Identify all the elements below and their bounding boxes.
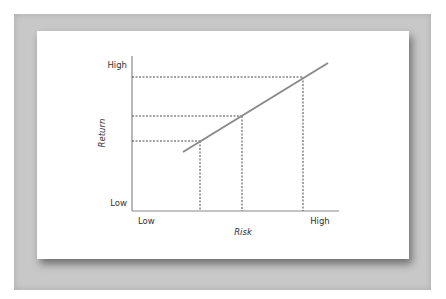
x-low-label: Low bbox=[138, 216, 155, 226]
y-high-label: High bbox=[107, 60, 127, 70]
x-axis-title: Risk bbox=[234, 227, 253, 237]
dashed-guides bbox=[132, 77, 303, 211]
tradeoff-line bbox=[183, 63, 328, 152]
risk-return-diagram: High Low Low High Risk Return bbox=[0, 0, 446, 299]
x-high-label: High bbox=[310, 216, 330, 226]
y-axis-title: Return bbox=[97, 119, 107, 148]
y-low-label: Low bbox=[110, 198, 127, 208]
